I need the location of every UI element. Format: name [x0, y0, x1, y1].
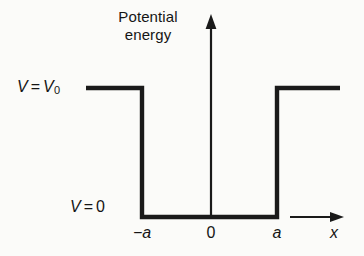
x-axis-arrow	[290, 212, 344, 222]
vertical-axis-arrowhead	[206, 14, 217, 29]
potential-well-plot	[0, 0, 364, 256]
potential-well-curve	[86, 88, 340, 217]
vertical-axis	[206, 14, 217, 218]
potential-well-figure: Potential energy V=V0 V=0 −a 0 a x	[0, 0, 364, 256]
x-axis-arrowhead	[330, 212, 344, 222]
